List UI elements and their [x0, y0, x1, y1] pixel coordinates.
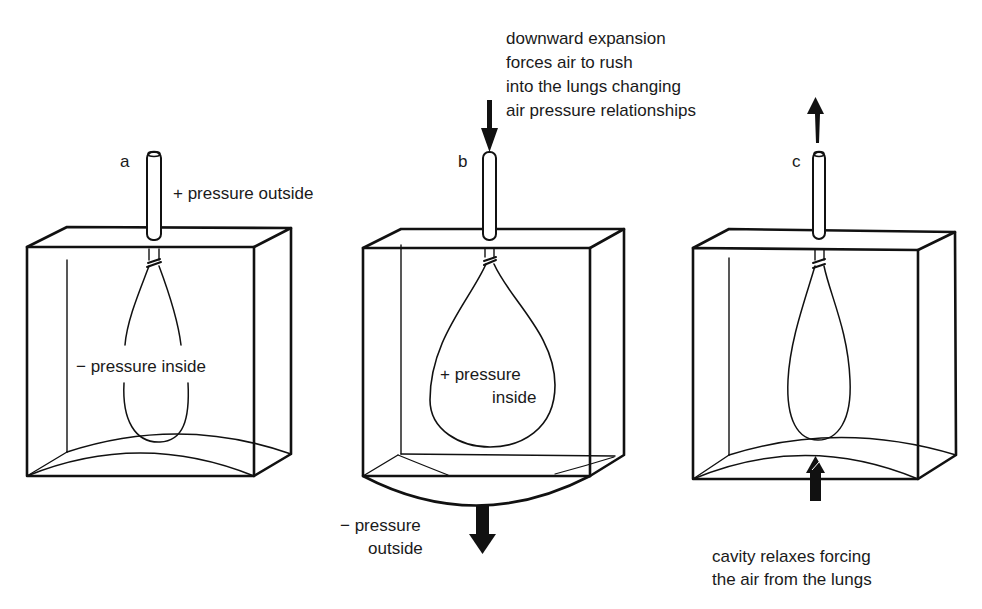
panel-a-letter: a: [120, 152, 129, 172]
panel-a-lung-balloon: [124, 259, 189, 442]
panel-b-lung-balloon: [430, 257, 555, 447]
diagram-canvas: [0, 0, 982, 609]
panel-c-annotation-line: the air from the lungs: [712, 569, 872, 590]
panel-a-pressure-outside-label: + pressure outside: [173, 183, 313, 204]
panel-a-jar: [27, 227, 291, 476]
panel-b-annotation: downward expansion forces air to rush in…: [506, 28, 696, 121]
panel-b-pressure-inside-label-1: + pressure: [440, 364, 521, 385]
panel-b-annotation-line: forces air to rush: [506, 52, 696, 73]
panel-c-letter: c: [792, 152, 801, 172]
panel-c-annotation-line: cavity relaxes forcing: [712, 546, 872, 567]
panel-b-annotation-line: into the lungs changing: [506, 76, 696, 97]
panel-b-pressure-inside-label-2: inside: [492, 387, 536, 408]
up-arrow-out-of-tube-icon: [807, 97, 824, 143]
panel-b-tube: [483, 152, 496, 257]
panel-b-pressure-outside-label-1: − pressure: [340, 515, 421, 536]
panel-a-pressure-inside-label: − pressure inside: [76, 356, 206, 377]
down-arrow-into-tube-icon: [481, 100, 498, 152]
panel-a-tube: [147, 152, 161, 261]
panel-b-pressure-outside-label-2: outside: [368, 538, 423, 559]
down-arrow-diaphragm-icon: [469, 506, 496, 554]
panel-b-annotation-line: downward expansion: [506, 28, 696, 49]
panel-c-annotation: cavity relaxes forcing the air from the …: [712, 546, 872, 590]
panel-c-lung-balloon: [788, 259, 850, 440]
panel-b-annotation-line: air pressure relationships: [506, 100, 696, 121]
panel-c-tube: [813, 152, 825, 261]
panel-b-letter: b: [458, 152, 467, 172]
